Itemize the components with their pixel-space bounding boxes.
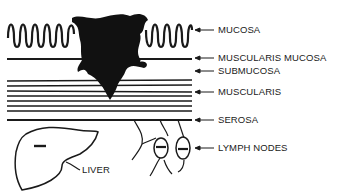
label-arrows	[195, 28, 214, 150]
label-muscularis-mucosa: MUSCULARIS MUCOSA	[218, 52, 326, 63]
label-liver: LIVER	[82, 164, 110, 175]
mucosa-villi	[8, 25, 74, 48]
label-lymph-nodes: LYMPH NODES	[218, 142, 288, 153]
liver-pointer	[66, 162, 80, 170]
label-submucosa: SUBMUCOSA	[218, 65, 280, 76]
liver-outline	[15, 127, 98, 190]
label-serosa: SEROSA	[218, 114, 258, 125]
label-mucosa: MUCOSA	[218, 24, 260, 35]
mucosa-villi-right	[146, 25, 192, 48]
tumor-mass	[72, 14, 148, 100]
muscularis-lines	[7, 80, 192, 111]
label-muscularis: MUSCULARIS	[218, 86, 281, 97]
bowel-wall-diagram	[0, 0, 342, 196]
